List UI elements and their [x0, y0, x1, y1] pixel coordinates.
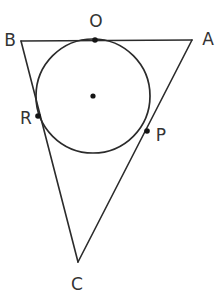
tangent-point-o-dot	[92, 37, 98, 43]
diagram-canvas: B A C O R P	[0, 0, 218, 300]
point-label-o: O	[89, 11, 102, 31]
geometry-figure: B A C O R P	[0, 0, 218, 300]
point-label-p: P	[156, 125, 166, 145]
triangle-edge-ac	[78, 40, 192, 262]
vertex-label-a: A	[202, 29, 214, 49]
tangent-point-r-dot	[35, 113, 41, 119]
vertex-label-c: C	[71, 274, 83, 294]
vertex-label-b: B	[4, 30, 16, 50]
triangle-edge-bc	[21, 41, 78, 262]
point-label-r: R	[20, 108, 32, 128]
circle-center-dot	[90, 93, 95, 98]
tangent-point-p-dot	[144, 128, 150, 134]
